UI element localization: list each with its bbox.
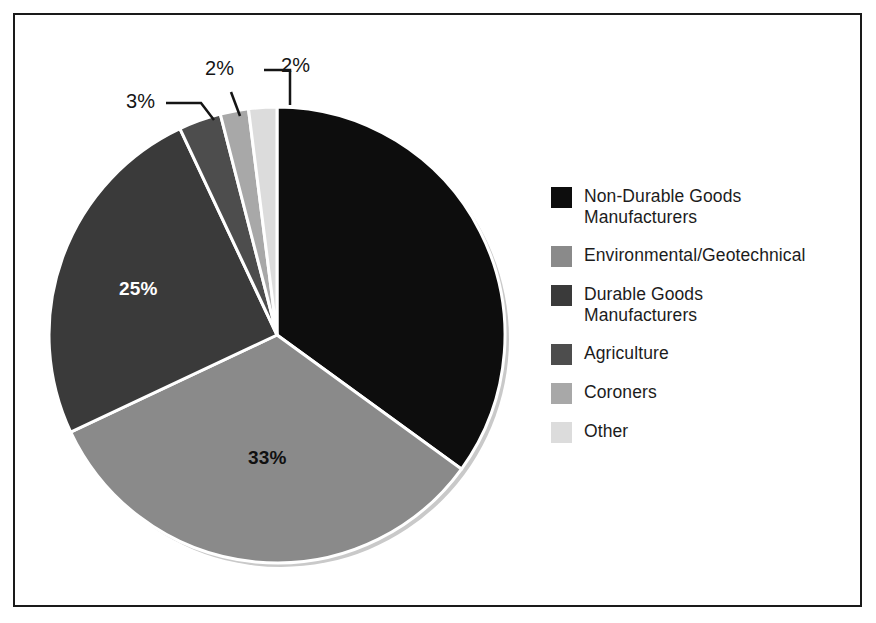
legend-swatch-icon-agriculture [551, 344, 572, 365]
legend-swatch-icon-coroners [551, 383, 572, 404]
legend-swatch-icon-non-durable-goods [551, 187, 572, 208]
legend-item-durable-goods[interactable]: Durable Goods Manufacturers [551, 284, 851, 326]
chart-legend: Non-Durable Goods Manufacturers Environm… [551, 186, 851, 460]
callout-label-coroners: 2% [205, 57, 234, 80]
callout-label-agriculture: 3% [126, 90, 155, 113]
legend-swatch-icon-environmental-geotechnical [551, 246, 572, 267]
legend-item-non-durable-goods[interactable]: Non-Durable Goods Manufacturers [551, 186, 851, 228]
slice-label-durable-goods: 25% [119, 278, 158, 300]
legend-label-non-durable-goods: Non-Durable Goods Manufacturers [584, 186, 741, 228]
legend-label-durable-goods: Durable Goods Manufacturers [584, 284, 703, 326]
legend-item-agriculture[interactable]: Agriculture [551, 343, 851, 365]
pie-chart-page: 25% 33% 3% 2% 2% Non-Durable Goods Manuf… [0, 0, 876, 623]
legend-label-coroners: Coroners [584, 382, 657, 403]
legend-swatch-icon-other [551, 422, 572, 443]
legend-label-agriculture: Agriculture [584, 343, 669, 364]
legend-swatch-icon-durable-goods [551, 285, 572, 306]
slice-label-environmental: 33% [248, 447, 287, 469]
legend-item-environmental-geotechnical[interactable]: Environmental/Geotechnical [551, 245, 851, 267]
legend-label-other: Other [584, 421, 628, 442]
chart-area: 25% 33% 3% 2% 2% Non-Durable Goods Manuf… [0, 0, 876, 623]
legend-item-coroners[interactable]: Coroners [551, 382, 851, 404]
legend-item-other[interactable]: Other [551, 421, 851, 443]
legend-label-environmental-geotechnical: Environmental/Geotechnical [584, 245, 805, 266]
callout-label-other: 2% [281, 54, 310, 77]
